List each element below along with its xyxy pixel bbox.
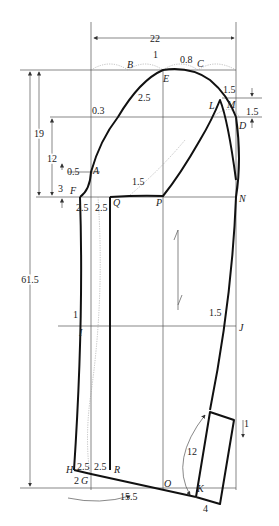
point-d: D xyxy=(238,120,247,131)
dim-cap-inner: 12 xyxy=(47,153,57,164)
dim-vent-drop: 1 xyxy=(244,418,249,429)
dim-f-seam-right: 2.5 xyxy=(95,202,108,213)
point-n: N xyxy=(238,193,247,204)
dim-a-offset: 0.5 xyxy=(67,166,80,177)
dimension-lines xyxy=(30,38,252,501)
point-k: K xyxy=(196,483,205,494)
dim-c-offset: 0.8 xyxy=(180,54,193,65)
point-p: P xyxy=(155,197,162,208)
point-i: I xyxy=(78,327,83,338)
point-m: M xyxy=(226,99,236,110)
dim-f-seam-left: 2.5 xyxy=(76,202,89,213)
sleeve-outline xyxy=(74,69,239,504)
point-e: E xyxy=(162,73,169,84)
dim-vent-width: 4 xyxy=(203,503,208,514)
point-h: H xyxy=(65,464,74,475)
sleeve-pattern-diagram: 22 61.5 19 12 0.5 3 0.3 2.5 1 0.8 1.5 1.… xyxy=(0,0,279,526)
grainline-arrow xyxy=(174,230,182,310)
dim-cap-outer: 19 xyxy=(34,128,44,139)
dimension-labels: 22 61.5 19 12 0.5 3 0.3 2.5 1 0.8 1.5 1.… xyxy=(21,33,258,514)
dim-vent-length: 12 xyxy=(187,446,197,457)
point-b: B xyxy=(127,59,133,70)
dim-b-offset: 0.3 xyxy=(92,105,105,116)
point-r: R xyxy=(113,464,120,475)
point-labels: A B C D E F G H I J K L M N O P Q R xyxy=(65,58,247,494)
dim-f-offset: 3 xyxy=(58,183,63,194)
dim-elbow-in: 1 xyxy=(73,309,78,320)
dim-hem-left: 2.5 xyxy=(77,461,90,472)
point-f: F xyxy=(69,185,77,196)
point-l: L xyxy=(208,100,215,111)
dim-hem-drop: 2 xyxy=(74,475,79,486)
dim-p-offset: 1.5 xyxy=(132,176,145,187)
dim-cuff-width: 15.5 xyxy=(120,491,138,502)
dim-e-offset: 1 xyxy=(153,49,158,60)
dim-elbow-out: 1.5 xyxy=(209,307,222,318)
dim-m-offset: 1.5 xyxy=(223,84,236,95)
point-g: G xyxy=(81,475,88,486)
point-c: C xyxy=(197,58,204,69)
point-o: O xyxy=(164,478,171,489)
dim-length: 61.5 xyxy=(21,274,39,285)
point-j: J xyxy=(239,322,244,333)
dim-hem-right: 2.5 xyxy=(94,461,107,472)
dim-width: 22 xyxy=(150,33,160,44)
dim-b-ease: 2.5 xyxy=(138,92,151,103)
point-q: Q xyxy=(113,197,121,208)
point-a: A xyxy=(92,165,100,176)
dim-d-offset: 1.5 xyxy=(246,106,259,117)
